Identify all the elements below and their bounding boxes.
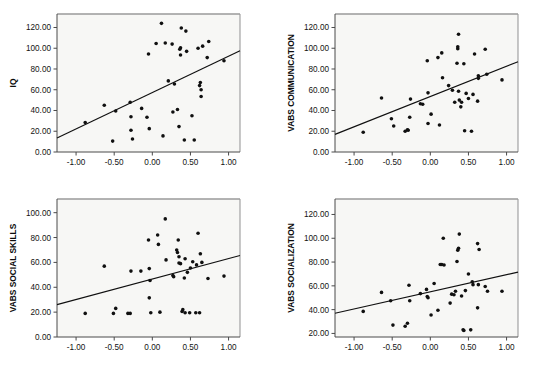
data-point — [185, 50, 189, 54]
y-tick-label: 100.00 — [26, 44, 51, 53]
y-axis-title: VABS SOCIAL SKILLS — [8, 223, 18, 312]
data-point — [199, 88, 203, 92]
data-point — [471, 93, 475, 97]
data-point — [436, 56, 440, 60]
data-point — [163, 217, 167, 221]
data-point — [160, 22, 164, 26]
x-tick-label: -0.50 — [383, 343, 402, 352]
data-point — [392, 124, 396, 128]
data-point — [129, 128, 133, 132]
scatter-plot-2: 0.0020.0040.0060.0080.00100.00-1.00-0.50… — [0, 185, 277, 370]
data-point — [426, 122, 430, 126]
data-point — [186, 271, 190, 275]
data-point — [147, 296, 151, 300]
data-point — [421, 102, 425, 106]
y-tick-label: 40.00 — [309, 306, 330, 315]
data-point — [457, 32, 461, 36]
y-tick-label: 60.00 — [309, 86, 330, 95]
x-tick-label: -0.50 — [105, 343, 124, 352]
x-tick-label: -1.00 — [67, 343, 86, 352]
y-tick-label: 40.00 — [309, 106, 330, 115]
data-point — [457, 232, 461, 236]
data-point — [102, 104, 106, 108]
data-point — [429, 112, 433, 116]
data-point — [464, 289, 468, 293]
plot-background — [57, 14, 240, 152]
data-point — [191, 260, 195, 264]
y-tick-label: 20.00 — [309, 127, 330, 136]
plot-background — [335, 199, 518, 337]
data-point — [442, 263, 446, 267]
data-point — [179, 262, 183, 266]
data-point — [380, 96, 384, 100]
x-tick-label: -1.00 — [67, 158, 86, 167]
data-point — [222, 274, 226, 278]
data-point — [157, 243, 161, 247]
data-point — [171, 110, 175, 114]
data-point — [485, 72, 489, 76]
data-point — [206, 277, 210, 281]
data-point — [456, 47, 460, 51]
data-point — [470, 129, 474, 133]
y-axis-title: VABS SOCIALIZATION — [286, 223, 296, 313]
scatter-panel-0: 0.0020.0040.0060.0080.00100.00120.00-1.0… — [0, 0, 277, 185]
x-tick-label: 1.00 — [221, 343, 237, 352]
y-tick-label: 120.00 — [304, 210, 329, 219]
data-point — [389, 299, 393, 303]
data-point — [128, 100, 132, 104]
data-point — [408, 299, 412, 303]
data-point — [409, 97, 413, 101]
y-tick-label: 80.00 — [309, 258, 330, 267]
data-point — [462, 329, 466, 333]
x-tick-label: -0.50 — [383, 158, 402, 167]
data-point — [140, 107, 144, 111]
data-point — [457, 90, 461, 94]
data-point — [176, 251, 180, 255]
data-point — [167, 79, 171, 83]
x-tick-label: 0.50 — [460, 343, 476, 352]
data-point — [432, 282, 436, 286]
scatter-plot-3: 20.0040.0060.0080.00100.00120.00-1.00-0.… — [278, 185, 555, 370]
data-point — [476, 242, 480, 246]
data-point — [460, 100, 464, 104]
data-point — [194, 311, 198, 315]
x-tick-label: 1.00 — [221, 158, 237, 167]
data-point — [477, 283, 481, 287]
data-point — [147, 127, 151, 131]
data-point — [181, 308, 185, 312]
data-point — [192, 138, 196, 142]
data-point — [455, 260, 459, 264]
data-point — [403, 324, 407, 328]
data-point — [201, 44, 205, 48]
data-point — [196, 231, 200, 235]
y-tick-label: 120.00 — [304, 23, 329, 32]
data-point — [199, 95, 203, 99]
x-tick-label: 0.50 — [182, 158, 198, 167]
data-point — [199, 252, 203, 256]
x-tick-label: 0.50 — [460, 158, 476, 167]
data-point — [483, 285, 487, 289]
data-point — [190, 114, 194, 118]
data-point — [114, 109, 118, 113]
data-point — [441, 236, 445, 240]
data-point — [454, 289, 458, 293]
data-point — [158, 310, 162, 314]
data-point — [198, 311, 202, 315]
data-point — [170, 42, 174, 46]
data-point — [114, 307, 118, 311]
y-tick-label: 80.00 — [31, 65, 52, 74]
data-point — [500, 78, 504, 82]
y-axis-title: IQ — [8, 78, 18, 87]
data-point — [129, 269, 133, 273]
x-tick-label: -1.00 — [345, 158, 364, 167]
y-tick-label: 0.00 — [35, 148, 51, 157]
y-tick-label: 20.00 — [31, 308, 52, 317]
data-point — [83, 312, 87, 316]
data-point — [198, 84, 202, 88]
data-point — [425, 288, 429, 292]
y-tick-label: 0.00 — [35, 333, 51, 342]
data-point — [196, 46, 200, 50]
scatter-panel-3: 20.0040.0060.0080.00100.00120.00-1.00-0.… — [278, 185, 555, 370]
data-point — [451, 88, 455, 92]
data-point — [452, 293, 456, 297]
